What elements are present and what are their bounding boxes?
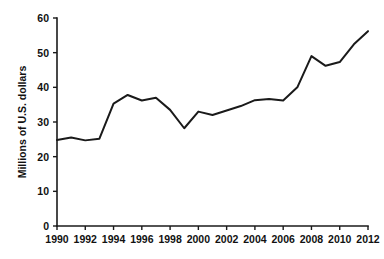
y-tick-label: 10 <box>37 185 49 197</box>
x-tick-label: 2010 <box>328 233 352 245</box>
chart-container: 0102030405060 19901992199419961998200020… <box>0 0 384 259</box>
y-axis-title: Millions of U.S. dollars <box>16 66 28 179</box>
x-tick-label: 1994 <box>102 233 126 245</box>
x-tick-label: 1996 <box>130 233 154 245</box>
line-chart: 0102030405060 19901992199419961998200020… <box>0 0 384 259</box>
x-tick-label: 2004 <box>243 233 267 245</box>
x-tick-label: 2012 <box>356 233 380 245</box>
y-tick-label: 40 <box>37 81 49 93</box>
y-tick-label: 0 <box>43 220 49 232</box>
y-tick-label: 20 <box>37 151 49 163</box>
x-tick-label: 1990 <box>45 233 69 245</box>
y-tick-label: 60 <box>37 12 49 24</box>
x-tick-label: 2008 <box>300 233 324 245</box>
y-tick-label: 50 <box>37 47 49 59</box>
x-tick-label: 2006 <box>272 233 296 245</box>
y-tick-label: 30 <box>37 116 49 128</box>
x-tick-label: 2000 <box>187 233 211 245</box>
x-tick-label: 1998 <box>158 233 182 245</box>
x-tick-label: 2002 <box>215 233 239 245</box>
x-tick-label: 1992 <box>74 233 98 245</box>
